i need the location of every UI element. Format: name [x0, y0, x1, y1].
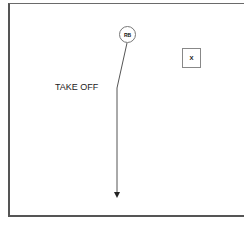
player-x-label: X — [189, 55, 193, 61]
player-x: X — [182, 48, 201, 68]
player-rb: RB — [119, 26, 136, 43]
player-rb-label: RB — [124, 32, 131, 38]
play-name-label: TAKE OFF — [55, 82, 98, 92]
rb-route-line — [117, 43, 127, 193]
arrowhead-icon — [114, 192, 120, 198]
